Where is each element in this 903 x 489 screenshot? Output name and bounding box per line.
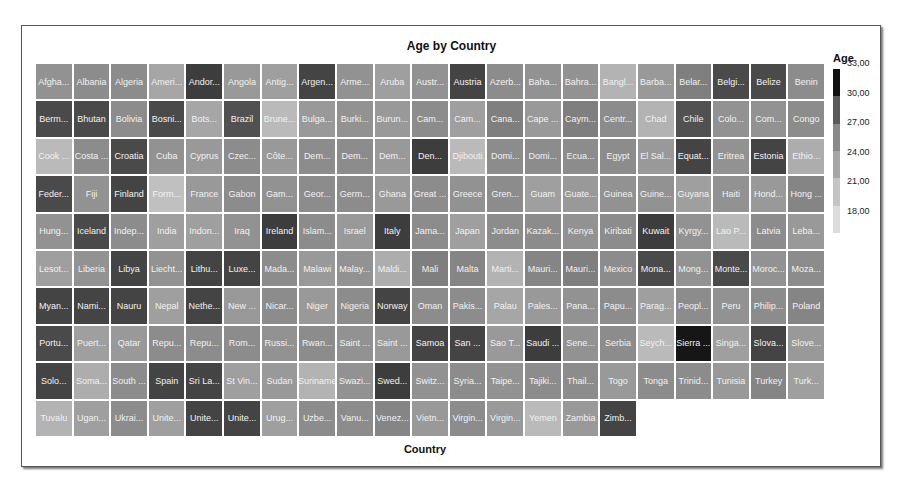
- heatmap-cell[interactable]: Cana...: [487, 101, 523, 136]
- heatmap-cell[interactable]: Bhutan: [74, 101, 110, 136]
- heatmap-cell[interactable]: Oman: [412, 288, 448, 323]
- heatmap-cell[interactable]: Chile: [676, 101, 712, 136]
- heatmap-cell[interactable]: Cape ...: [525, 101, 561, 136]
- heatmap-cell[interactable]: Spain: [149, 363, 185, 398]
- heatmap-cell[interactable]: Sierra ...: [676, 326, 712, 361]
- heatmap-cell[interactable]: Peru: [713, 288, 749, 323]
- heatmap-cell[interactable]: Ameri...: [149, 64, 185, 99]
- heatmap-cell[interactable]: Marti...: [487, 251, 523, 286]
- heatmap-cell[interactable]: Niger: [299, 288, 335, 323]
- heatmap-cell[interactable]: Islam...: [299, 214, 335, 249]
- heatmap-cell[interactable]: Bots...: [186, 101, 222, 136]
- heatmap-cell[interactable]: Com...: [751, 101, 787, 136]
- heatmap-cell[interactable]: Albania: [74, 64, 110, 99]
- heatmap-cell[interactable]: Norway: [375, 288, 411, 323]
- heatmap-cell[interactable]: Saint ...: [337, 326, 373, 361]
- heatmap-cell[interactable]: Congo: [788, 101, 824, 136]
- heatmap-cell[interactable]: Nicar...: [262, 288, 298, 323]
- heatmap-cell[interactable]: Nigeria: [337, 288, 373, 323]
- heatmap-cell[interactable]: Vanu...: [337, 401, 373, 436]
- heatmap-cell[interactable]: Moroc...: [751, 251, 787, 286]
- heatmap-cell[interactable]: Unite...: [224, 401, 260, 436]
- heatmap-cell[interactable]: Turkey: [751, 363, 787, 398]
- heatmap-cell[interactable]: Germ...: [337, 176, 373, 211]
- heatmap-cell[interactable]: Suriname: [299, 363, 335, 398]
- heatmap-cell[interactable]: Dem...: [375, 139, 411, 174]
- heatmap-cell[interactable]: Pales...: [525, 288, 561, 323]
- heatmap-cell[interactable]: Geor...: [299, 176, 335, 211]
- heatmap-cell[interactable]: Barba...: [638, 64, 674, 99]
- heatmap-cell[interactable]: Sri La...: [186, 363, 222, 398]
- heatmap-cell[interactable]: El Sal...: [638, 139, 674, 174]
- heatmap-cell[interactable]: Andor...: [186, 64, 222, 99]
- heatmap-cell[interactable]: Austria: [450, 64, 486, 99]
- heatmap-cell[interactable]: Bolivia: [111, 101, 147, 136]
- heatmap-cell[interactable]: Berm...: [36, 101, 72, 136]
- heatmap-cell[interactable]: Lesot...: [36, 251, 72, 286]
- heatmap-cell[interactable]: Peopl...: [676, 288, 712, 323]
- heatmap-cell[interactable]: Guinea: [600, 176, 636, 211]
- heatmap-cell[interactable]: Seych...: [638, 326, 674, 361]
- heatmap-cell[interactable]: Lithu...: [186, 251, 222, 286]
- heatmap-cell[interactable]: Serbia: [600, 326, 636, 361]
- heatmap-cell[interactable]: Jama...: [412, 214, 448, 249]
- heatmap-cell[interactable]: Ukrai...: [111, 401, 147, 436]
- heatmap-cell[interactable]: Saudi ...: [525, 326, 561, 361]
- heatmap-cell[interactable]: Den...: [412, 139, 448, 174]
- heatmap-cell[interactable]: Myan...: [36, 288, 72, 323]
- heatmap-cell[interactable]: Guam: [525, 176, 561, 211]
- heatmap-cell[interactable]: Kyrgy...: [676, 214, 712, 249]
- heatmap-cell[interactable]: Ethio...: [788, 139, 824, 174]
- heatmap-cell[interactable]: Venez...: [375, 401, 411, 436]
- heatmap-cell[interactable]: Antig...: [262, 64, 298, 99]
- heatmap-cell[interactable]: Jordan: [487, 214, 523, 249]
- heatmap-cell[interactable]: South ...: [111, 363, 147, 398]
- heatmap-cell[interactable]: Rom...: [224, 326, 260, 361]
- heatmap-cell[interactable]: Guyana: [676, 176, 712, 211]
- heatmap-cell[interactable]: Feder...: [36, 176, 72, 211]
- heatmap-cell[interactable]: Luxe...: [224, 251, 260, 286]
- heatmap-cell[interactable]: Indon...: [186, 214, 222, 249]
- heatmap-cell[interactable]: Kazak...: [525, 214, 561, 249]
- heatmap-cell[interactable]: Greece: [450, 176, 486, 211]
- heatmap-cell[interactable]: Algeria: [111, 64, 147, 99]
- heatmap-cell[interactable]: Mona...: [638, 251, 674, 286]
- heatmap-cell[interactable]: Nepal: [149, 288, 185, 323]
- heatmap-cell[interactable]: Benin: [788, 64, 824, 99]
- heatmap-cell[interactable]: Ecua...: [563, 139, 599, 174]
- heatmap-cell[interactable]: Iraq: [224, 214, 260, 249]
- heatmap-cell[interactable]: Mauri...: [525, 251, 561, 286]
- heatmap-cell[interactable]: Haiti: [713, 176, 749, 211]
- heatmap-cell[interactable]: Zambia: [563, 401, 599, 436]
- heatmap-cell[interactable]: Ugan...: [74, 401, 110, 436]
- heatmap-cell[interactable]: Lao P...: [713, 214, 749, 249]
- heatmap-cell[interactable]: Philip...: [751, 288, 787, 323]
- heatmap-cell[interactable]: Virgin...: [487, 401, 523, 436]
- heatmap-cell[interactable]: Yemen: [525, 401, 561, 436]
- heatmap-cell[interactable]: Chad: [638, 101, 674, 136]
- heatmap-cell[interactable]: Liecht...: [149, 251, 185, 286]
- heatmap-cell[interactable]: Rwan...: [299, 326, 335, 361]
- heatmap-cell[interactable]: Uzbe...: [299, 401, 335, 436]
- heatmap-cell[interactable]: Nethe...: [186, 288, 222, 323]
- heatmap-cell[interactable]: Syria...: [450, 363, 486, 398]
- heatmap-cell[interactable]: Guine...: [638, 176, 674, 211]
- heatmap-cell[interactable]: Unite...: [186, 401, 222, 436]
- heatmap-cell[interactable]: Hong ...: [788, 176, 824, 211]
- heatmap-cell[interactable]: Zimb...: [600, 401, 636, 436]
- heatmap-cell[interactable]: Thail...: [563, 363, 599, 398]
- heatmap-cell[interactable]: Togo: [600, 363, 636, 398]
- heatmap-cell[interactable]: Papu...: [600, 288, 636, 323]
- heatmap-cell[interactable]: Afgha...: [36, 64, 72, 99]
- heatmap-cell[interactable]: Dem...: [337, 139, 373, 174]
- heatmap-cell[interactable]: Mali: [412, 251, 448, 286]
- heatmap-cell[interactable]: Croatia: [111, 139, 147, 174]
- heatmap-cell[interactable]: India: [149, 214, 185, 249]
- heatmap-cell[interactable]: Costa ...: [74, 139, 110, 174]
- heatmap-cell[interactable]: San ...: [450, 326, 486, 361]
- heatmap-cell[interactable]: Kuwait: [638, 214, 674, 249]
- heatmap-cell[interactable]: Qatar: [111, 326, 147, 361]
- heatmap-cell[interactable]: Burun...: [375, 101, 411, 136]
- heatmap-cell[interactable]: Sao T...: [487, 326, 523, 361]
- heatmap-cell[interactable]: Tuvalu: [36, 401, 72, 436]
